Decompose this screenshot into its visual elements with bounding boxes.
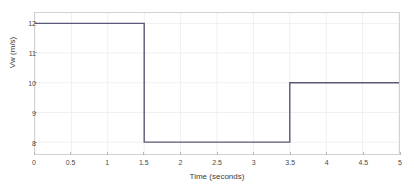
x-tick-label: 0 [32,159,36,166]
x-tick-label: 5 [398,159,402,166]
y-tick-label: 12 [28,19,36,26]
series-line-0 [35,23,399,142]
y-tick-label: 8 [32,139,36,146]
x-axis-title: Time (seconds) [34,172,400,181]
x-tick-mark [217,152,218,155]
x-tick-mark [290,152,291,155]
x-tick-mark [34,152,35,155]
x-tick-label: 0.5 [66,159,76,166]
x-tick-label: 4 [325,159,329,166]
y-axis-title: Vw (m/s) [8,17,17,89]
x-tick-label: 3 [252,159,256,166]
x-tick-mark [107,152,108,155]
wind-speed-step-chart: 00.511.522.533.544.55 89101112 Time (sec… [0,0,414,190]
x-tick-label: 2 [178,159,182,166]
plot-area [34,12,400,155]
x-tick-mark [326,152,327,155]
y-tick-label: 9 [32,109,36,116]
x-tick-label: 3.5 [285,159,295,166]
x-tick-mark [363,152,364,155]
x-tick-mark [400,152,401,155]
data-series-line [35,13,399,154]
y-tick-label: 10 [28,79,36,86]
x-tick-label: 4.5 [359,159,369,166]
x-tick-mark [180,152,181,155]
x-tick-mark [253,152,254,155]
y-tick-label: 11 [29,49,36,56]
x-tick-mark [143,152,144,155]
x-tick-label: 2.5 [212,159,222,166]
x-tick-mark [70,152,71,155]
x-tick-label: 1 [105,159,109,166]
x-tick-label: 1.5 [139,159,149,166]
